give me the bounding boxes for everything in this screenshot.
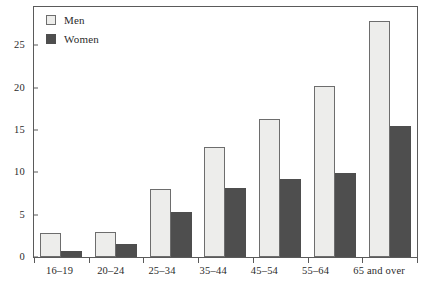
bar-men (314, 86, 335, 257)
y-tick-label: 10 (14, 167, 25, 178)
x-tick-mark (253, 258, 254, 263)
x-tick-label: 35–44 (200, 266, 227, 286)
bar-women (61, 251, 82, 257)
dark-square-swatch (46, 34, 56, 44)
x-axis: 16–1920–2425–3435–4445–5455–6465 and ove… (34, 266, 417, 286)
x-tick-label: 45–54 (251, 266, 278, 286)
bar-group (369, 7, 411, 257)
x-tick-label: 16–19 (46, 266, 73, 286)
bar-group (259, 7, 301, 257)
x-tick-mark (143, 258, 144, 263)
y-tick-label: 25 (14, 40, 25, 51)
bar-group (314, 7, 356, 257)
y-tick-label: 20 (14, 82, 25, 93)
legend-entry-women: Women (46, 31, 99, 47)
bar-men (40, 233, 61, 257)
light-square-swatch (46, 15, 56, 25)
y-tick-label: 15 (14, 125, 25, 136)
x-tick-mark (308, 258, 309, 263)
x-tick-mark (89, 258, 90, 263)
bar-group (150, 7, 192, 257)
bar-women (116, 244, 137, 257)
legend-label: Men (64, 15, 85, 26)
bar-chart: 0510152025 16–1920–2425–3435–4445–5455–6… (0, 0, 424, 292)
y-axis: 0510152025 (0, 6, 33, 258)
bar-women (225, 188, 246, 257)
x-axis-ticks (34, 258, 417, 263)
y-tick-label: 0 (20, 252, 25, 263)
bar-group (204, 7, 246, 257)
bar-men (95, 232, 116, 257)
legend-label: Women (64, 34, 99, 45)
bar-women (171, 212, 192, 257)
bar-women (280, 179, 301, 257)
bar-men (204, 147, 225, 257)
x-tick-label: 20–24 (97, 266, 124, 286)
x-tick-mark (417, 258, 418, 263)
x-tick-label: 55–64 (302, 266, 329, 286)
legend-entry-men: Men (46, 12, 99, 28)
x-tick-mark (198, 258, 199, 263)
y-tick-label: 5 (20, 209, 25, 220)
x-tick-label: 25–34 (148, 266, 175, 286)
x-tick-mark (362, 258, 363, 263)
legend: MenWomen (46, 12, 99, 50)
bar-men (259, 119, 280, 257)
x-tick-mark (34, 258, 35, 263)
bar-group (95, 7, 137, 257)
x-tick-label: 65 and over (353, 266, 405, 286)
bar-men (150, 189, 171, 257)
bar-women (335, 173, 356, 257)
bar-men (369, 21, 390, 257)
bar-women (390, 126, 411, 257)
